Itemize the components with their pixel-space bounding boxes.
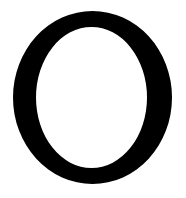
letter-canvas: O: [0, 0, 186, 198]
letter-o-glyph: [0, 0, 186, 198]
